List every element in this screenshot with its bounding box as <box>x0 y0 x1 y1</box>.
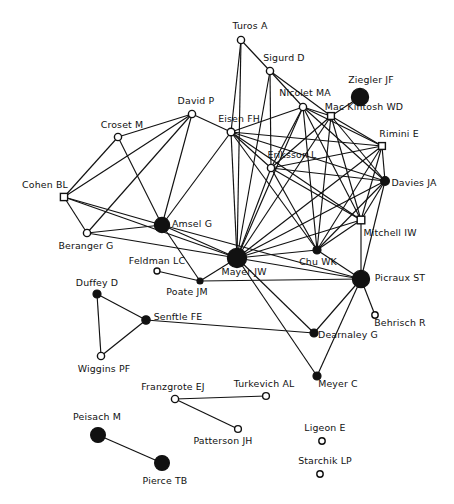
graph-edge <box>101 320 146 356</box>
graph-edge <box>331 116 385 181</box>
graph-edge <box>237 71 270 258</box>
graph-edge <box>97 294 146 320</box>
edges-layer <box>64 40 385 463</box>
graph-node-amsel[interactable] <box>154 217 169 232</box>
graph-node-feldman[interactable] <box>154 268 160 274</box>
graph-edge <box>231 132 317 250</box>
graph-node-eriksson[interactable] <box>267 164 274 171</box>
graph-node-peisach[interactable] <box>91 428 106 443</box>
graph-edge <box>303 107 385 181</box>
graph-node-mackintosh[interactable] <box>328 113 335 120</box>
graph-edge <box>270 71 271 168</box>
graph-node-duffey[interactable] <box>93 290 101 298</box>
network-diagram-canvas: Turos ASigurd DZiegler JFNicolet MAMac K… <box>0 0 454 504</box>
graph-edge <box>361 181 385 279</box>
graph-edge <box>146 320 314 333</box>
graph-edge <box>231 132 271 168</box>
graph-node-wiggins[interactable] <box>97 352 104 359</box>
graph-edge <box>271 116 331 168</box>
graph-edge <box>97 294 101 356</box>
graph-node-franzgrote[interactable] <box>171 395 178 402</box>
graph-edge <box>118 114 192 137</box>
graph-edge <box>237 107 303 258</box>
graph-node-mayer_jw[interactable] <box>227 248 246 267</box>
graph-edge <box>64 197 237 258</box>
graph-node-turos[interactable] <box>237 36 244 43</box>
graph-edge <box>361 146 382 220</box>
graph-edge <box>382 146 385 181</box>
graph-node-croset[interactable] <box>114 133 121 140</box>
graph-edge <box>118 137 162 225</box>
network-graph-svg <box>0 0 454 504</box>
graph-node-picraux[interactable] <box>352 270 369 287</box>
graph-edge <box>87 233 237 258</box>
graph-edge <box>162 225 361 279</box>
graph-node-pierce[interactable] <box>155 456 170 471</box>
graph-edge <box>175 396 266 399</box>
graph-edge <box>314 279 361 333</box>
graph-edge <box>175 399 238 429</box>
graph-node-senftle[interactable] <box>142 316 150 324</box>
graph-node-davies[interactable] <box>381 177 390 186</box>
graph-node-beranger[interactable] <box>83 229 90 236</box>
graph-node-ziegler[interactable] <box>351 88 368 105</box>
graph-edge <box>317 220 361 250</box>
graph-edge <box>98 435 162 463</box>
graph-node-cohen[interactable] <box>60 193 67 200</box>
graph-edge <box>87 225 162 233</box>
graph-edge <box>162 132 231 225</box>
graph-node-meyer_c[interactable] <box>313 372 321 380</box>
graph-node-dearnaley[interactable] <box>310 329 318 337</box>
graph-node-starchik[interactable] <box>317 471 323 477</box>
graph-node-patterson[interactable] <box>235 426 242 433</box>
graph-edge <box>237 258 317 376</box>
graph-node-mitchell[interactable] <box>357 216 365 224</box>
graph-node-poate[interactable] <box>197 278 203 284</box>
graph-node-eisen[interactable] <box>227 128 235 136</box>
graph-node-turkevich[interactable] <box>263 393 270 400</box>
graph-edge <box>231 132 237 258</box>
graph-node-david[interactable] <box>188 110 195 117</box>
graph-edge <box>317 181 385 250</box>
graph-edge <box>317 279 361 376</box>
graph-node-sigurd[interactable] <box>266 67 273 74</box>
nodes-layer <box>60 36 389 477</box>
graph-node-chu[interactable] <box>313 246 321 254</box>
graph-node-behrisch[interactable] <box>372 312 378 318</box>
graph-node-rimini[interactable] <box>379 143 386 150</box>
graph-edge <box>192 114 231 132</box>
graph-edge <box>271 168 385 181</box>
graph-node-nicolet[interactable] <box>299 103 306 110</box>
graph-edge <box>270 71 303 107</box>
graph-node-ligeon[interactable] <box>319 438 325 444</box>
graph-edge <box>200 279 361 281</box>
graph-edge <box>241 40 270 71</box>
